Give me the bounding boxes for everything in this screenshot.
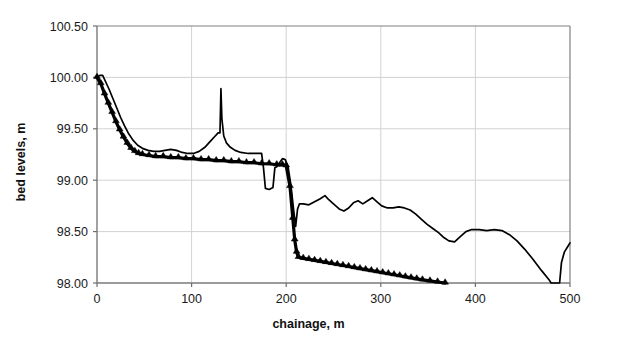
y-axis-title: bed levels, m bbox=[14, 0, 28, 92]
x-tick-label: 400 bbox=[465, 292, 486, 306]
x-tick-label: 300 bbox=[370, 292, 391, 306]
bed-levels-line-chart: 0100200300400500 98.0098.5099.0099.50100… bbox=[0, 0, 617, 357]
plot-background bbox=[97, 26, 570, 283]
x-axis-title: chainage, m bbox=[0, 317, 617, 331]
x-tick-label: 500 bbox=[560, 292, 581, 306]
y-tick-label: 100.50 bbox=[50, 20, 88, 34]
y-tick-label: 100.00 bbox=[50, 71, 88, 85]
y-axis-tick-labels: 98.0098.5099.0099.50100.00100.50 bbox=[50, 20, 88, 291]
y-axis-title-text: bed levels, m bbox=[14, 92, 28, 232]
x-axis-tick-labels: 0100200300400500 bbox=[94, 292, 581, 306]
x-tick-label: 0 bbox=[94, 292, 101, 306]
y-tick-label: 98.00 bbox=[57, 277, 88, 291]
x-tick-label: 200 bbox=[276, 292, 297, 306]
y-tick-label: 99.00 bbox=[57, 174, 88, 188]
chart-figure: 0100200300400500 98.0098.5099.0099.50100… bbox=[0, 0, 617, 357]
y-tick-label: 99.50 bbox=[57, 122, 88, 136]
y-tick-label: 98.50 bbox=[57, 225, 88, 239]
x-tick-label: 100 bbox=[181, 292, 202, 306]
